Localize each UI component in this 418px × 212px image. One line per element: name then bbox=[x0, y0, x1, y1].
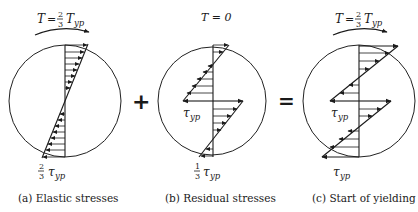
stress-label-c: τ yp bbox=[333, 165, 351, 181]
inner-label-b: τ yp bbox=[183, 106, 201, 122]
svg-text:τ: τ bbox=[183, 106, 190, 120]
svg-text:yp: yp bbox=[209, 171, 221, 181]
svg-text:2: 2 bbox=[58, 10, 63, 19]
svg-text:τ: τ bbox=[333, 165, 340, 179]
svg-text:=: = bbox=[345, 13, 354, 26]
svg-text:1: 1 bbox=[195, 162, 200, 171]
stress-label-a: 2 3 τ yp bbox=[38, 162, 66, 181]
plus-operator: + bbox=[132, 89, 150, 114]
stress-superposition-diagram: T = 2 3 T yp bbox=[0, 0, 418, 212]
svg-text:τ: τ bbox=[331, 106, 338, 120]
torque-label-b: T = 0 bbox=[201, 11, 232, 24]
panel-c-yielding: T = 2 3 T yp bbox=[303, 10, 416, 204]
svg-text:2: 2 bbox=[356, 10, 361, 19]
inner-label-c: τ yp bbox=[331, 106, 349, 122]
svg-text:2: 2 bbox=[39, 162, 44, 171]
stress-label-b: 1 3 τ yp bbox=[194, 162, 221, 181]
caption-a: (a) Elastic stresses bbox=[18, 192, 118, 204]
svg-text:yp: yp bbox=[189, 112, 201, 122]
panel-b-residual: T = 0 τ bbox=[158, 11, 276, 204]
svg-text:yp: yp bbox=[73, 18, 85, 28]
caption-b: (b) Residual stresses bbox=[165, 192, 276, 204]
svg-text:3: 3 bbox=[195, 172, 200, 181]
svg-text:3: 3 bbox=[39, 172, 44, 181]
svg-text:3: 3 bbox=[356, 20, 361, 29]
stress-arrows-a-bottom bbox=[43, 114, 65, 157]
svg-text:yp: yp bbox=[371, 18, 383, 28]
stress-arrows-c bbox=[322, 46, 398, 157]
svg-text:τ: τ bbox=[203, 165, 210, 179]
panel-a-elastic: T = 2 3 T yp bbox=[9, 10, 121, 204]
torque-label-a: T = 2 3 T yp bbox=[37, 10, 85, 29]
torque-arrow-icon bbox=[35, 29, 89, 35]
equals-operator: = bbox=[278, 89, 295, 113]
caption-c: (c) Start of yielding bbox=[312, 192, 416, 204]
torque-label-c: T = 2 3 T yp bbox=[335, 10, 383, 29]
svg-text:τ: τ bbox=[48, 165, 55, 179]
svg-text:=: = bbox=[47, 13, 56, 26]
svg-text:yp: yp bbox=[339, 171, 351, 181]
svg-text:T: T bbox=[335, 12, 344, 26]
svg-text:yp: yp bbox=[54, 171, 66, 181]
torque-arrow-icon bbox=[333, 29, 387, 35]
svg-text:yp: yp bbox=[337, 112, 349, 122]
svg-text:3: 3 bbox=[58, 20, 63, 29]
svg-text:T: T bbox=[37, 12, 46, 26]
stress-arrows-a-top bbox=[65, 45, 87, 88]
